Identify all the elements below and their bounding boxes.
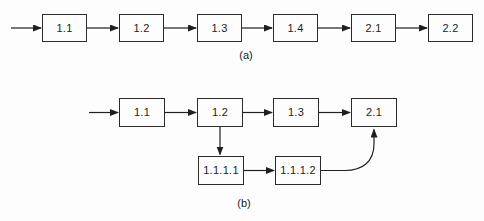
node-b-1-1-1-1: 1.1.1.1 xyxy=(198,156,244,185)
node-b-1-1: 1.1 xyxy=(119,98,165,127)
arrow-b-1-1-1-2-to-2-1 xyxy=(321,130,374,171)
caption-a: (a) xyxy=(224,49,268,61)
node-b-1-3: 1.3 xyxy=(273,98,319,127)
node-a-2-2: 2.2 xyxy=(428,14,473,42)
node-b-2-1: 2.1 xyxy=(351,98,397,127)
node-b-1-2: 1.2 xyxy=(197,98,243,127)
node-a-1-1: 1.1 xyxy=(42,14,87,42)
node-a-1-4: 1.4 xyxy=(273,14,318,42)
node-a-1-3: 1.3 xyxy=(197,14,242,42)
caption-b: (b) xyxy=(222,197,266,209)
flow-diagram-figure: 1.1 1.2 1.3 1.4 2.1 2.2 (a) 1.1 1.2 1.3 … xyxy=(0,0,484,221)
node-b-1-1-1-2: 1.1.1.2 xyxy=(275,156,321,185)
node-a-1-2: 1.2 xyxy=(119,14,164,42)
node-a-2-1: 2.1 xyxy=(351,14,396,42)
